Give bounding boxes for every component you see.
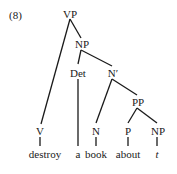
edge-nbar-pp xyxy=(112,79,137,95)
edge-np-det xyxy=(78,50,81,64)
node-n: N xyxy=(92,125,100,137)
word-about: about xyxy=(116,148,140,160)
word-a: a xyxy=(76,148,81,160)
edge-nbar-n xyxy=(96,79,112,123)
example-number: (8) xyxy=(9,9,22,22)
syntax-tree: (8) VP NP Det N′ PP V N P NP destroy a b… xyxy=(0,0,177,174)
edge-vp-v xyxy=(41,19,70,124)
word-book: book xyxy=(85,148,108,160)
node-vp: VP xyxy=(63,8,77,20)
edge-pp-p xyxy=(128,108,137,123)
node-np-low: NP xyxy=(151,125,165,137)
edge-pp-np xyxy=(137,108,157,123)
edge-np-nbar xyxy=(81,50,112,66)
word-trace: t xyxy=(155,148,159,160)
edge-vp-np xyxy=(70,19,81,38)
node-v: V xyxy=(36,125,44,137)
node-p: P xyxy=(125,125,131,137)
word-destroy: destroy xyxy=(29,148,62,160)
node-nbar: N′ xyxy=(108,67,118,79)
node-det: Det xyxy=(70,67,86,79)
node-pp: PP xyxy=(132,96,144,108)
node-np-top: NP xyxy=(75,38,89,50)
